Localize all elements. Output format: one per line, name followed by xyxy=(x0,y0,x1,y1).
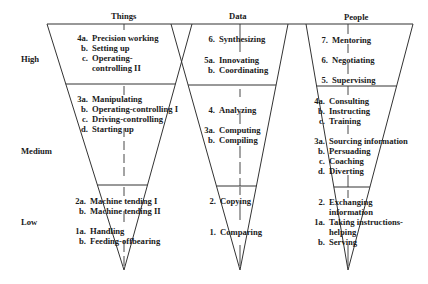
column-heading-people: People xyxy=(344,12,368,22)
column-heading-data: Data xyxy=(229,11,247,21)
column-heading-things: Things xyxy=(111,11,136,21)
list-item: c.Driving-controlling xyxy=(74,114,163,124)
list-item: 1.Comparing xyxy=(202,227,262,237)
list-item: b.Operating-controlling I xyxy=(74,104,178,114)
list-item: information xyxy=(311,207,373,217)
list-item: 7.Mentoring xyxy=(314,35,371,45)
list-item: b.Instructing xyxy=(311,106,370,116)
list-item: 2.Copying xyxy=(202,196,251,206)
list-item: d.Starting up xyxy=(74,124,134,134)
list-item: b.Feeding-offbearing xyxy=(72,236,160,246)
list-item: b.Setting up xyxy=(74,43,130,53)
list-item: 3a.Sourcing information xyxy=(311,136,408,146)
list-item: b.Compiling xyxy=(201,135,258,145)
list-item: 6.Negotiating xyxy=(314,55,375,65)
list-item: controlling II xyxy=(74,63,141,73)
list-item: 2.Exchanging xyxy=(311,197,372,207)
level-label-low: Low xyxy=(21,217,37,227)
list-item: 1a.Taking instructions- xyxy=(311,217,403,227)
list-item: helping xyxy=(311,227,356,237)
level-label-high: High xyxy=(21,54,39,64)
list-item: 3a.Computing xyxy=(201,125,261,135)
list-item: b.Machine tending II xyxy=(72,206,161,216)
list-item: 5a.Innovating xyxy=(201,55,259,65)
list-item: 1a.Handling xyxy=(72,226,124,236)
list-item: b.Serving xyxy=(311,237,357,247)
list-item: 3a.Manipulating xyxy=(74,94,142,104)
list-item: c.Coaching xyxy=(311,156,364,166)
list-item: c.Operating- xyxy=(74,53,133,63)
list-item: 2a.Machine tending I xyxy=(72,196,157,206)
list-item: b.Coordinating xyxy=(201,65,268,75)
list-item: 4a.Precision working xyxy=(74,33,158,43)
list-item: b.Persuading xyxy=(311,146,371,156)
list-item: 6.Synthesizing xyxy=(201,34,265,44)
list-item: 4a.Consulting xyxy=(311,96,369,106)
list-item: c.Training xyxy=(311,116,361,126)
list-item: d.Diverting xyxy=(311,166,364,176)
level-label-medium: Medium xyxy=(21,146,52,156)
list-item: 4.Analyzing xyxy=(201,105,256,115)
list-item: 5.Supervising xyxy=(314,75,375,85)
